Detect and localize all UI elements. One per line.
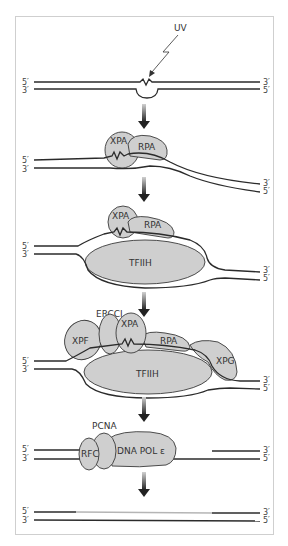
- arrow-2-head-icon: [138, 194, 150, 202]
- arrow-5-icon: [142, 472, 146, 490]
- pcna-label: PCNA: [92, 421, 117, 431]
- arrow-2-icon: [142, 177, 146, 195]
- strand-end-5-right: 5′: [263, 187, 270, 196]
- rpa-label: RPA: [144, 220, 162, 230]
- bottom-strand: [34, 89, 260, 98]
- strand-end-3-left: 3′: [22, 516, 29, 525]
- arrow-4-icon: [142, 397, 146, 415]
- arrow-1-head-icon: [138, 121, 150, 129]
- step-6-ligation: 5′ 3′ 3′ 5′: [22, 507, 270, 525]
- xpa-label: XPA: [112, 211, 130, 221]
- tfiih-label: TFIIH: [135, 369, 159, 379]
- dna-pol-label: DNA POL ε: [117, 446, 165, 456]
- rpa-label: RPA: [138, 142, 156, 152]
- top-strand-new-segment: [76, 512, 212, 513]
- strand-end-5-right: 5′: [263, 274, 270, 283]
- xpa-label: XPA: [110, 136, 128, 146]
- rfc-label: RFC: [81, 449, 99, 459]
- strand-end-5-right: 5′: [263, 86, 270, 95]
- arrow-5-head-icon: [138, 489, 150, 497]
- strand-end-3-left: 3′: [22, 454, 29, 463]
- tfiih-label: TFIIH: [128, 258, 152, 268]
- arrow-3-head-icon: [138, 309, 150, 317]
- strand-end-3-left: 3′: [22, 250, 29, 259]
- step-4-incision: ERCCI 5′ 3′ TFIIH XPG XPF RPA XPA 3′ 5′: [22, 309, 270, 398]
- xpg-label: XPG: [216, 356, 235, 366]
- ner-diagram: UV 5′ 3′ 3′ 5′ 5′ 3′ XPA RPA 3′ 5′ 5′ 3′…: [0, 0, 288, 546]
- strand-end-5-right: 5′: [263, 454, 270, 463]
- top-strand: [34, 79, 260, 85]
- xpa-label: XPA: [121, 319, 139, 329]
- strand-end-3-left: 3′: [22, 165, 29, 174]
- bottom-strand: [34, 520, 260, 521]
- arrow-3-icon: [142, 292, 146, 310]
- xpf-label: XPF: [72, 336, 89, 346]
- step-2-recognition: 5′ 3′ XPA RPA 3′ 5′: [22, 132, 270, 196]
- strand-end-3-left: 3′: [22, 365, 29, 374]
- step-5-synthesis: PCNA 5′ 3′ DNA POL ε RFC 3′ 5′: [22, 421, 270, 470]
- uv-arrowhead-icon: [149, 70, 155, 77]
- strand-end-3-left: 3′: [22, 86, 29, 95]
- arrow-4-head-icon: [138, 414, 150, 422]
- step-3-unwinding: 5′ 3′ TFIIH XPA RPA 3′ 5′: [22, 206, 270, 288]
- rpa-label: RPA: [160, 336, 178, 346]
- step-1-damage: UV 5′ 3′ 3′ 5′: [22, 23, 270, 98]
- arrow-1-icon: [142, 104, 146, 122]
- strand-end-5-left: 5′: [22, 445, 29, 454]
- strand-end-5-left: 5′: [22, 156, 29, 165]
- strand-end-5-right: 5′: [263, 516, 270, 525]
- uv-label: UV: [174, 23, 188, 33]
- uv-lightning-icon: [152, 35, 178, 72]
- strand-end-5-right: 5′: [263, 384, 270, 393]
- strand-end-5-left: 5′: [22, 507, 29, 516]
